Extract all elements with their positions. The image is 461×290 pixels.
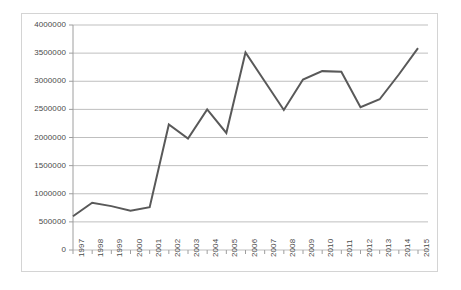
y-axis-tick-label: 2000000 [34,133,66,142]
chart-container: 4000000350000030000002500000200000015000… [0,0,461,290]
y-axis-tick-label: 1500000 [34,161,66,170]
y-axis-tick-label: 3000000 [34,76,66,85]
x-axis-tick-label: 2012 [365,239,374,257]
x-axis-tick-label: 2006 [250,239,259,257]
y-axis-tick-label: 0 [61,245,66,254]
x-axis-tick-label: 2009 [307,239,316,257]
x-axis-tick-label: 2014 [403,239,412,257]
x-axis-tick-label: 2001 [154,239,163,257]
y-axis-tick-label: 500000 [39,217,66,226]
y-axis-tick-label: 4000000 [34,20,66,29]
y-axis-tick-label: 3500000 [34,48,66,57]
x-axis-tick-label: 2000 [135,239,144,257]
y-axis-ticks [69,25,73,250]
x-axis-tick-label: 1997 [77,239,86,257]
x-axis-tick-label: 1999 [115,239,124,257]
x-axis-tick-label: 2005 [230,239,239,257]
y-axis-tick-label: 1000000 [34,189,66,198]
x-axis-tick-label: 2007 [269,239,278,257]
x-axis-tick-label: 2011 [345,239,354,257]
x-axis-tick-label: 2013 [384,239,393,257]
x-axis-tick-label: 2003 [192,239,201,257]
x-axis-tick-label: 2015 [422,239,431,257]
x-axis-tick-label: 2010 [326,239,335,257]
x-axis-tick-label: 2008 [288,239,297,257]
data-line-series-1 [73,48,418,216]
data-series-group [73,48,418,216]
y-axis-tick-label: 2500000 [34,104,66,113]
x-axis-tick-label: 1998 [96,239,105,257]
x-axis-tick-label: 2004 [211,239,220,257]
x-axis-tick-label: 2002 [173,239,182,257]
